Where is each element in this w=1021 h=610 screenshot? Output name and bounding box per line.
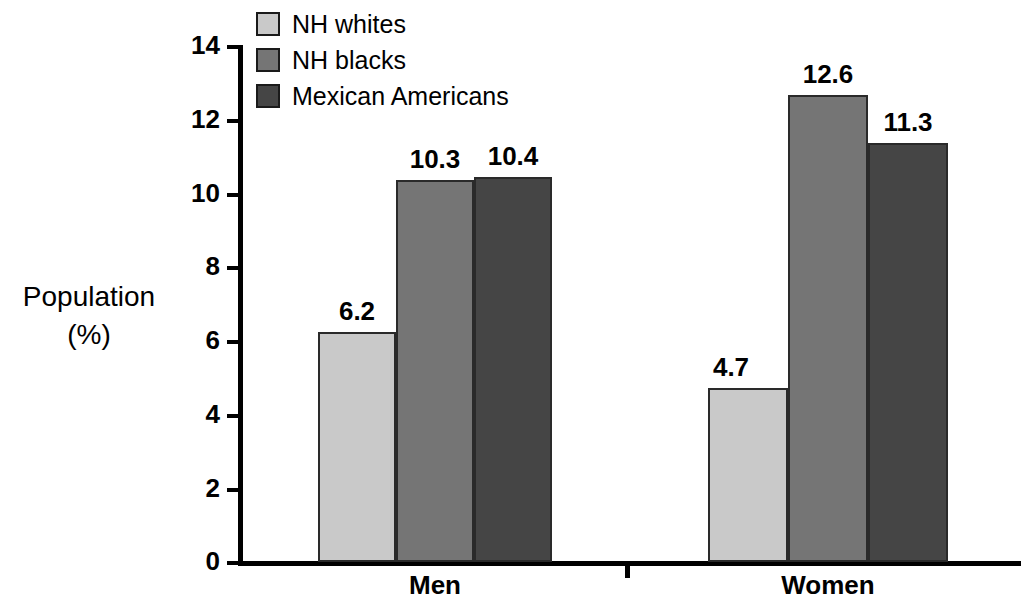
plot-area: 14 12 10 8 6 4 2 0 6.2 10.3 10.4 Men 4.7… — [0, 0, 1021, 610]
y-axis-tick-label-6: 6 — [160, 327, 220, 353]
y-axis-tick-label-14: 14 — [160, 32, 220, 58]
bar-men-nh-whites — [318, 332, 396, 562]
bar-value-women-mexican-americans: 11.3 — [863, 109, 953, 135]
y-axis-tick-label-2: 2 — [160, 475, 220, 501]
bar-value-women-nh-whites: 4.7 — [691, 354, 771, 380]
y-axis-tick-10 — [227, 193, 240, 197]
bar-men-mexican-americans — [474, 177, 552, 562]
bar-women-mexican-americans — [868, 143, 948, 562]
y-axis-tick-0 — [227, 561, 240, 565]
x-axis-group-label-men: Men — [375, 572, 495, 598]
y-axis-tick-label-10: 10 — [160, 180, 220, 206]
y-axis-tick-8 — [227, 266, 240, 270]
bar-value-men-nh-whites: 6.2 — [318, 298, 396, 324]
x-axis-group-label-women: Women — [768, 572, 888, 598]
y-axis-tick-6 — [227, 340, 240, 344]
bar-women-nh-blacks — [788, 95, 868, 562]
chart-figure: NH whites NH blacks Mexican Americans Po… — [0, 0, 1021, 610]
y-axis-tick-label-12: 12 — [160, 106, 220, 132]
bar-men-nh-blacks — [396, 180, 474, 562]
bar-women-nh-whites — [708, 388, 788, 562]
bar-value-women-nh-blacks: 12.6 — [783, 61, 873, 87]
x-axis-group-divider-tick — [625, 564, 630, 578]
bar-value-men-nh-blacks: 10.3 — [390, 146, 480, 172]
bar-value-men-mexican-americans: 10.4 — [468, 143, 558, 169]
y-axis-tick-label-8: 8 — [160, 253, 220, 279]
y-axis-tick-4 — [227, 414, 240, 418]
y-axis-tick-2 — [227, 488, 240, 492]
y-axis-tick-label-0: 0 — [160, 548, 220, 574]
y-axis-tick-14 — [227, 45, 240, 49]
y-axis-tick-12 — [227, 119, 240, 123]
y-axis-tick-label-4: 4 — [160, 401, 220, 427]
